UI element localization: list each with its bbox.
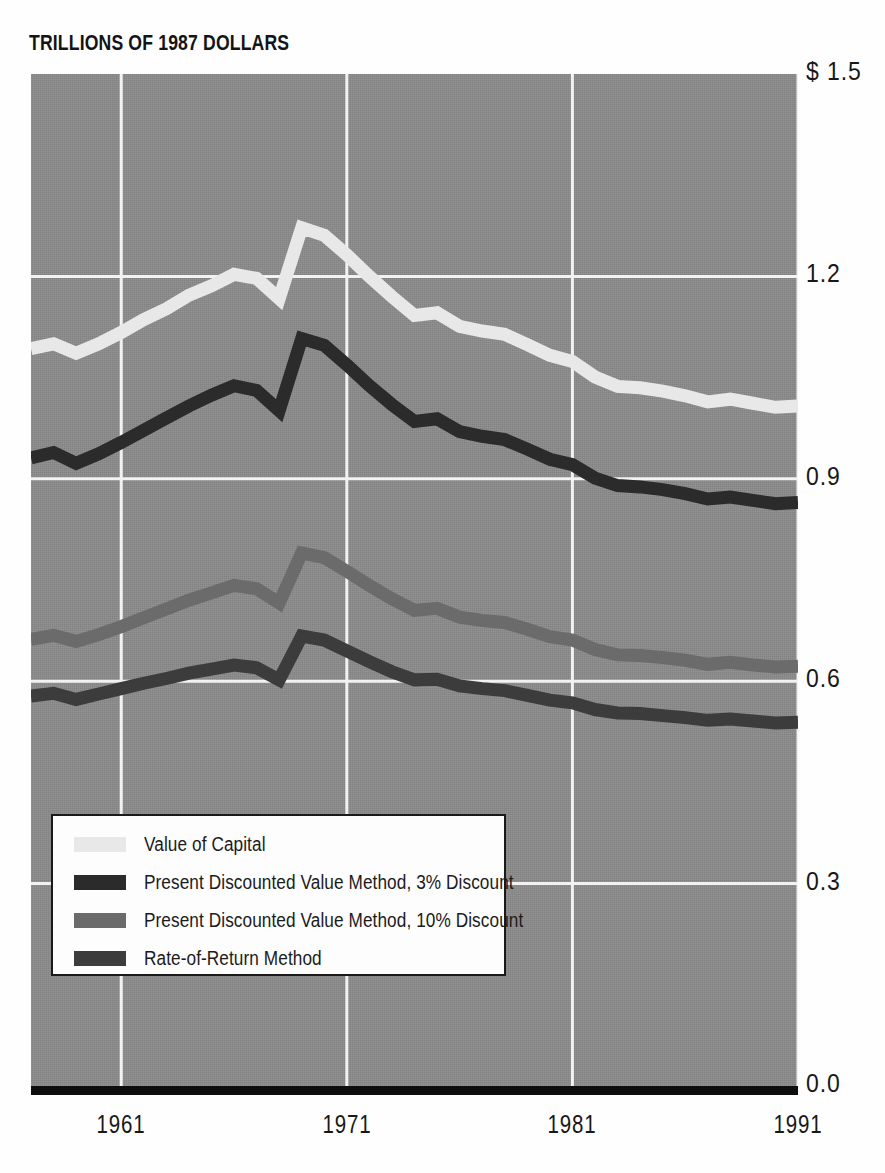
- y-axis-tick-label: 0.0: [806, 1069, 841, 1098]
- y-axis-tick-label: $ 1.5: [806, 57, 862, 86]
- legend-item: Present Discounted Value Method, 3% Disc…: [53, 862, 504, 902]
- series-line-3: [31, 636, 798, 723]
- x-axis-tick-label: 1991: [749, 1110, 847, 1139]
- chart-legend: Value of CapitalPresent Discounted Value…: [51, 814, 506, 976]
- y-axis-tick-label: 0.3: [806, 867, 841, 896]
- series-line-2: [31, 553, 798, 667]
- legend-item-label: Value of Capital: [144, 833, 266, 856]
- legend-swatch-icon: [74, 875, 126, 890]
- y-axis-tick-label: 1.2: [806, 259, 841, 288]
- legend-item: Present Discounted Value Method, 10% Dis…: [53, 900, 504, 940]
- chart-figure: TRILLIONS OF 1987 DOLLARS $ 1.51.20.90.6…: [0, 0, 885, 1173]
- legend-item: Value of Capital: [53, 824, 504, 864]
- legend-item-label: Present Discounted Value Method, 3% Disc…: [144, 871, 514, 894]
- x-axis-baseline: [31, 1086, 798, 1095]
- series-lines: [31, 228, 798, 723]
- legend-item-label: Present Discounted Value Method, 10% Dis…: [144, 909, 523, 932]
- legend-item-label: Rate-of-Return Method: [144, 947, 322, 970]
- y-axis-tick-label: 0.6: [806, 664, 841, 693]
- x-axis-tick-label: 1961: [72, 1110, 170, 1139]
- legend-item: Rate-of-Return Method: [53, 938, 504, 978]
- x-axis-tick-label: 1971: [298, 1110, 396, 1139]
- legend-swatch-icon: [74, 913, 126, 928]
- y-axis-tick-label: 0.9: [806, 462, 841, 491]
- legend-swatch-icon: [74, 837, 126, 852]
- series-line-0: [31, 228, 798, 407]
- legend-swatch-icon: [74, 951, 126, 966]
- page-title: TRILLIONS OF 1987 DOLLARS: [29, 30, 289, 56]
- x-axis-tick-label: 1981: [523, 1110, 621, 1139]
